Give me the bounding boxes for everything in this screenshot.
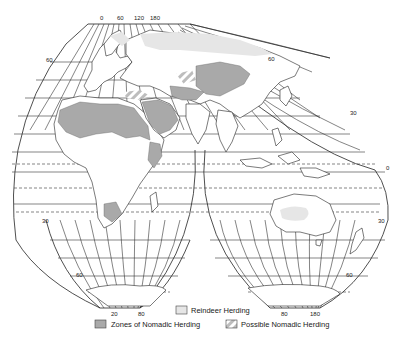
- lon-label-0: 0: [100, 15, 104, 21]
- bottom-lon-label-left-20: 20: [111, 311, 118, 317]
- legend: Reindeer Herding Zones of Nomadic Herdin…: [95, 306, 329, 329]
- lat-label-left-north: 60: [46, 57, 53, 63]
- india: [186, 104, 210, 144]
- madagascar: [150, 192, 158, 212]
- lat-label-left-south-lower: 60: [76, 272, 83, 278]
- reindeer-label: Reindeer Herding: [191, 306, 250, 315]
- legend-item-possible: Possible Nomadic Herding: [226, 320, 329, 329]
- legend-item-reindeer: Reindeer Herding: [176, 306, 250, 315]
- nomadic-swatch: [95, 320, 106, 328]
- possible-label: Possible Nomadic Herding: [241, 320, 329, 329]
- legend-item-nomadic: Zones of Nomadic Herding: [95, 320, 200, 329]
- bottom-lon-label-left-80: 80: [138, 311, 145, 317]
- possible-swatch: [226, 320, 237, 328]
- lat-label-right-north-upper: 60: [268, 56, 275, 62]
- nomadic-label: Zones of Nomadic Herding: [111, 320, 200, 329]
- lon-label-60: 60: [117, 15, 124, 21]
- bottom-lon-label-right-80: 80: [281, 311, 288, 317]
- lat-label-right-south-lower: 60: [346, 272, 353, 278]
- lat-label-left-south: 30: [42, 218, 49, 224]
- indonesia: [240, 158, 272, 168]
- antarctica-left: [86, 285, 166, 306]
- japan: [280, 86, 292, 106]
- world-map: 0 60 120 180 60 60 30 0 30 30 60 60 20 8…: [0, 0, 404, 348]
- lat-label-right-north-lower: 30: [350, 110, 357, 116]
- antarctica-right: [248, 284, 340, 306]
- lon-label-120: 120: [134, 15, 145, 21]
- lon-label-180: 180: [150, 15, 161, 21]
- lat-label-right-south: 30: [378, 218, 385, 224]
- bottom-lon-label-right-180: 180: [310, 311, 321, 317]
- equator-label: 0: [386, 165, 390, 171]
- reindeer-swatch: [176, 306, 187, 314]
